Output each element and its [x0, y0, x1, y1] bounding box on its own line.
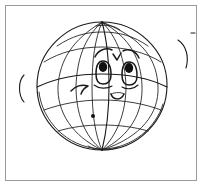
mouth-upper-lip: [111, 93, 124, 95]
globe-meridians-group: [58, 22, 158, 150]
parallel-equator: [37, 74, 167, 87]
left-cheek-curl: [71, 85, 88, 94]
left-eye-pupil: [99, 62, 107, 72]
meridian-7: [102, 22, 158, 150]
globe-sketch-drawing: [0, 0, 202, 186]
nose-tick: [113, 53, 121, 60]
right-eye: [122, 62, 137, 85]
right-eye-pupil: [125, 63, 133, 73]
meridian-center: [102, 22, 109, 150]
globe-parallels-group: [37, 32, 167, 131]
left-eyebrow: [95, 49, 112, 57]
image-canvas: Smiling cartoon globe line drawing Hand-…: [0, 0, 202, 186]
right-motion-arc: [178, 40, 187, 68]
meridian-3: [92, 22, 102, 150]
smiling-mouth: [111, 94, 124, 99]
face-group: [71, 49, 139, 118]
beauty-mark-dot: [91, 114, 95, 118]
parallel-north-2: [57, 32, 148, 46]
left-motion-arc: [20, 75, 25, 102]
parallel-south-2: [58, 125, 148, 131]
